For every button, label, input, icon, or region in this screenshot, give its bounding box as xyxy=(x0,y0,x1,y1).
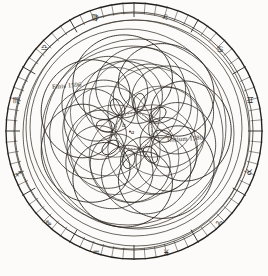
rim-tick-minor xyxy=(201,25,208,35)
epicyclic-path-outer xyxy=(41,35,231,227)
rim-tick-minor xyxy=(201,227,208,237)
rim-tick-minor xyxy=(28,57,38,64)
orbit-diagram-svg: ♌♍♎♏♐♑♒♓♈♉♊♋ xyxy=(0,0,268,276)
diagram-plate: ♌♍♎♏♐♑♒♓♈♉♊♋ Finis 1596 Initium 1580 b a xyxy=(0,0,268,276)
zodiac-glyph-taurus: ♉ xyxy=(245,168,252,177)
rim-tick-minor xyxy=(183,14,188,25)
rim-tick-minor xyxy=(230,198,240,205)
zodiac-glyph-group: ♌♍♎♏♐♑♒♓♈♉♊♋ xyxy=(12,13,253,257)
zodiac-glyph-libra: ♎ xyxy=(40,43,47,52)
rim-tick-minor xyxy=(224,206,233,214)
zodiac-glyph-capricorn: ♑ xyxy=(44,219,51,228)
deferent-arc xyxy=(70,67,160,157)
zodiac-glyph-aquarius: ♒ xyxy=(92,248,99,257)
zodiac-glyph-aries: ♈ xyxy=(215,220,222,229)
zodiac-glyph-pisces: ♓ xyxy=(162,248,169,257)
center-point-a-dot xyxy=(129,131,131,133)
envelope-outer-b xyxy=(23,20,249,246)
rim-tick-minor xyxy=(28,198,38,205)
rim-tick-minor xyxy=(240,180,251,185)
rim-tick-minor xyxy=(35,206,44,214)
zodiac-glyph-gemini: ♊ xyxy=(246,96,253,105)
deferent-arc xyxy=(70,105,160,195)
zodiac-glyph-leo: ♌ xyxy=(161,13,168,22)
center-dotted-circle xyxy=(116,113,152,149)
rim-tick-minor xyxy=(209,32,217,41)
rim-tick-minor xyxy=(51,32,59,41)
rim-tick-minor xyxy=(51,221,59,230)
zodiac-glyph-sagittarius: ♐ xyxy=(14,170,21,179)
zodiac-glyph-cancer: ♋ xyxy=(216,45,223,54)
rim-tick-minor xyxy=(240,76,251,81)
epicyclic-curve-group xyxy=(41,35,231,227)
rim-tick-minor xyxy=(224,48,233,56)
zodiac-glyph-virgo: ♍ xyxy=(91,13,98,22)
rim-tick-minor xyxy=(183,237,188,248)
zodiac-glyph-scorpio: ♏ xyxy=(12,96,20,105)
petal-loop xyxy=(107,96,128,118)
rim-tick-minor xyxy=(230,57,240,64)
